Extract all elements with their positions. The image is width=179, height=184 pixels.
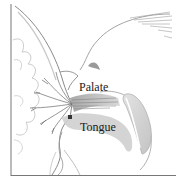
baby-head-outline <box>80 14 170 70</box>
breastfeeding-diagram: Palate Tongue <box>0 0 179 184</box>
tongue-marker <box>68 115 72 119</box>
tongue-label: Tongue <box>80 121 116 133</box>
breast-lobules <box>13 39 39 135</box>
baby-hair <box>130 12 172 38</box>
baby-eye <box>88 63 100 70</box>
palate-label: Palate <box>79 81 108 93</box>
breast-outline <box>15 6 72 175</box>
